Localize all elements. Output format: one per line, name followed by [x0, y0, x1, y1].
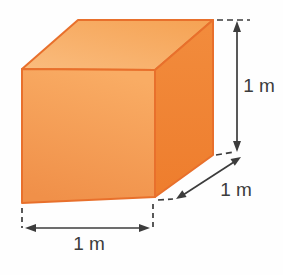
depth-arrowhead-upper — [231, 157, 242, 166]
cube-front-face — [22, 69, 155, 203]
cube-diagram-svg: 1 m 1 m 1 m — [0, 0, 283, 275]
cube — [22, 20, 213, 203]
height-dimension-label: 1 m — [243, 75, 275, 96]
width-arrowhead-left — [25, 224, 36, 232]
depth-dimension-label: 1 m — [220, 179, 252, 200]
depth-extension-line — [158, 199, 173, 200]
height-arrowhead-up — [233, 21, 241, 32]
cube-measurement-figure: 1 m 1 m 1 m — [0, 0, 283, 275]
depth-arrowhead-lower — [176, 190, 187, 199]
width-arrowhead-right — [139, 224, 150, 232]
height-extension-line-bottom — [216, 152, 234, 155]
height-arrowhead-down — [233, 141, 241, 152]
width-dimension-label: 1 m — [73, 233, 105, 254]
